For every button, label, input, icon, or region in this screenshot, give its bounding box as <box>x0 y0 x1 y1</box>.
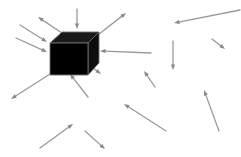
cube-layer <box>50 32 99 75</box>
arrow-field-bottom-down-right <box>85 131 105 149</box>
arrow-in-left-upper-shaft <box>20 25 43 40</box>
arrow-out-up-left-head <box>38 17 44 22</box>
arrow-field-right-up-left-head <box>204 90 208 96</box>
arrow-in-right-horizontal-shaft <box>105 51 151 53</box>
diagram-canvas <box>0 0 241 157</box>
arrow-out-down-left <box>11 74 50 99</box>
arrow-out-down-left-head <box>11 94 17 99</box>
cube-front-face <box>50 43 88 75</box>
cube-arrow-scene <box>0 0 241 157</box>
arrow-in-bottom-up-left <box>70 74 88 97</box>
arrow-in-bottom-up-left-shaft <box>73 78 88 97</box>
arrow-layer <box>11 9 240 149</box>
arrow-field-right-up-left <box>204 90 219 131</box>
arrow-field-mid-up-left <box>144 71 155 87</box>
arrow-field-right-up-left-shaft <box>206 94 219 131</box>
arrow-out-up-right-shaft <box>99 16 122 34</box>
arrow-field-top-right-left <box>174 10 240 24</box>
arrow-field-small-down-right-shaft <box>212 39 221 46</box>
arrow-in-top-down <box>75 9 79 29</box>
arrow-field-top-right-left-shaft <box>179 10 240 22</box>
arrow-out-down-left-shaft <box>15 74 50 96</box>
arrow-field-bottom-up-right-shaft <box>40 127 69 148</box>
arrow-in-left-lower-head <box>41 48 47 52</box>
arrow-field-mid-up-left-shaft <box>147 75 155 87</box>
arrow-field-top-right-left-head <box>174 20 180 24</box>
arrow-in-top-down-head <box>75 24 79 30</box>
arrow-out-up-right <box>99 13 126 34</box>
arrow-field-long-up-left-shaft <box>128 107 166 131</box>
arrow-field-small-down-right <box>212 39 225 49</box>
arrow-field-long-up-left-head <box>124 104 130 109</box>
arrow-field-vertical-down-head <box>171 65 175 71</box>
arrow-field-vertical-down <box>171 41 175 70</box>
arrow-field-bottom-down-right-shaft <box>85 131 102 146</box>
arrow-out-up-left-shaft <box>42 20 62 33</box>
arrow-out-up-left <box>38 17 62 33</box>
arrow-in-right-horizontal <box>100 49 151 53</box>
arrow-in-left-upper <box>20 25 47 42</box>
arrow-in-left-lower-shaft <box>16 38 43 50</box>
arrow-in-right-horizontal-head <box>100 49 106 53</box>
arrow-field-bottom-up-right <box>40 124 73 148</box>
arrow-in-left-upper-head <box>41 37 47 42</box>
arrow-field-long-up-left <box>124 104 166 131</box>
